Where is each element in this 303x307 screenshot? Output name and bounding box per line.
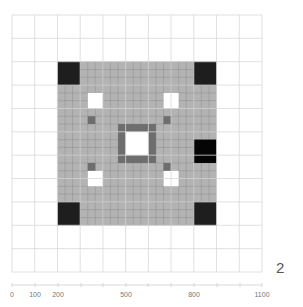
cell-hole-top-left — [88, 93, 103, 109]
cell-corner-bottom-right — [194, 202, 217, 225]
axis-tick-label: 200 — [52, 291, 64, 298]
cell-small-bottom-right — [164, 163, 172, 171]
axis-tick-label: 500 — [120, 291, 132, 298]
cell-hole-center — [126, 132, 149, 155]
grid-diagram — [0, 0, 303, 307]
axis-tick-label: 1100 — [254, 291, 269, 298]
cell-small-top-left — [88, 116, 96, 124]
figure: 01002005008001100 2 — [0, 0, 303, 307]
axis-tick-label: 0 — [10, 291, 14, 298]
cell-corner-top-right — [194, 62, 217, 85]
cell-small-top-right — [164, 116, 172, 124]
axis-tick-label: 100 — [29, 291, 41, 298]
cell-corner-bottom-left — [57, 202, 80, 225]
panel-number: 2 — [276, 259, 284, 276]
cell-small-bottom-left — [88, 163, 96, 171]
cell-right-middle — [194, 140, 217, 163]
cell-corner-top-left — [57, 62, 80, 85]
axis-tick-label: 800 — [188, 291, 200, 298]
